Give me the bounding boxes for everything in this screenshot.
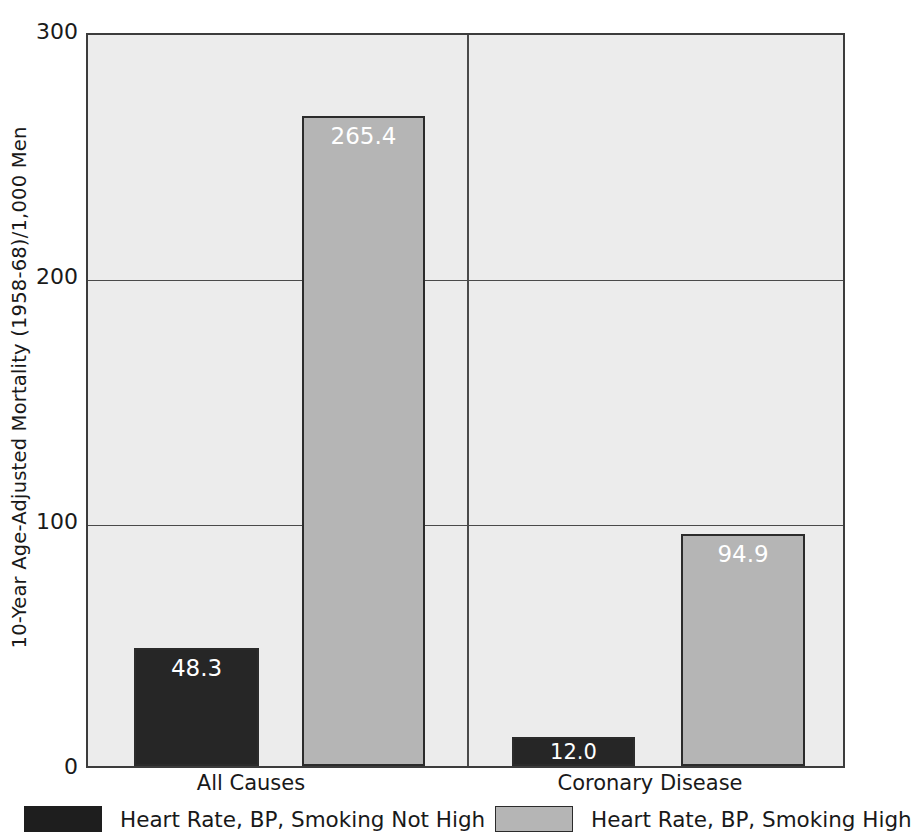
legend-item-not-high[interactable]: Heart Rate, BP, Smoking Not High: [24, 806, 485, 832]
x-tick-coronary-disease: Coronary Disease: [505, 772, 795, 795]
bar-all-causes-not-high[interactable]: 48.3: [134, 648, 259, 766]
x-tick-all-causes: All Causes: [126, 772, 376, 795]
legend-label-high: Heart Rate, BP, Smoking High: [591, 807, 912, 832]
legend-swatch-high-icon: [495, 806, 573, 832]
legend-item-high[interactable]: Heart Rate, BP, Smoking High: [495, 806, 912, 832]
category-separator: [467, 35, 469, 766]
bar-value-all-causes-high: 265.4: [304, 124, 423, 149]
bar-coronary-disease-high[interactable]: 94.9: [681, 534, 805, 766]
bar-value-coronary-disease-high: 94.9: [683, 542, 803, 567]
bar-all-causes-high[interactable]: 265.4: [302, 116, 425, 766]
y-tick-200: 200: [6, 266, 78, 288]
gridline-100: [88, 525, 843, 526]
y-tick-300: 300: [6, 21, 78, 43]
gridline-200: [88, 280, 843, 281]
y-tick-100: 100: [6, 511, 78, 533]
bar-value-coronary-disease-not-high: 12.0: [514, 741, 633, 764]
bar-value-all-causes-not-high: 48.3: [136, 656, 257, 681]
plot-area: 48.3 265.4 12.0 94.9: [86, 33, 845, 768]
bar-coronary-disease-not-high[interactable]: 12.0: [512, 737, 635, 766]
y-tick-0: 0: [6, 756, 78, 778]
y-axis-tick-labels: 300 200 100 0: [0, 0, 78, 840]
legend-swatch-not-high-icon: [24, 806, 102, 832]
legend-label-not-high: Heart Rate, BP, Smoking Not High: [120, 807, 485, 832]
